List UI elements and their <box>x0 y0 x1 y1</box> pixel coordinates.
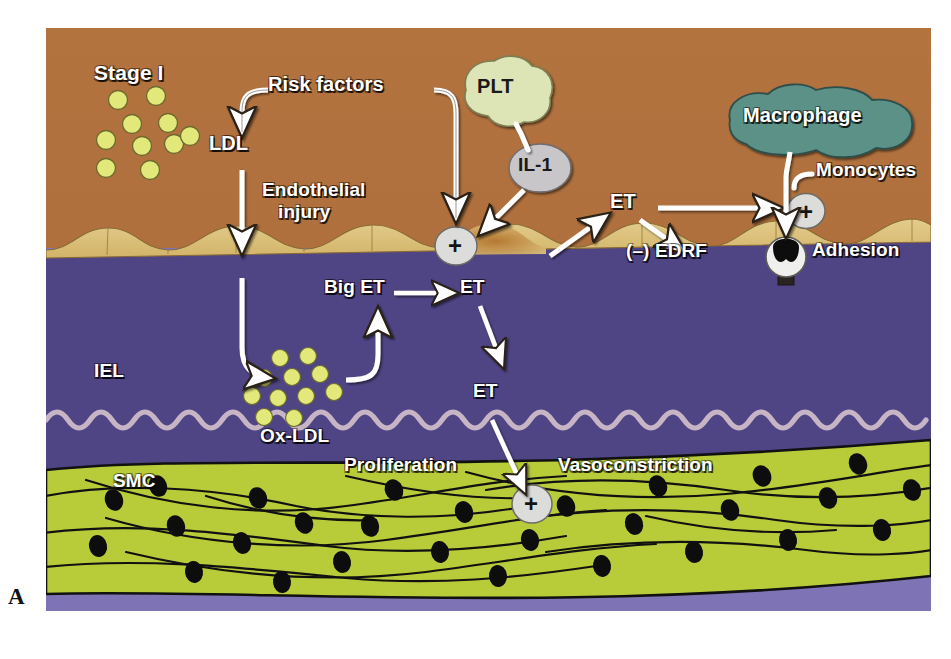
smc-label: SMC <box>113 471 156 492</box>
et-intima-label: ET <box>473 381 497 402</box>
plus-endothelial-activation-label: + <box>448 232 462 260</box>
proliferation-label: Proliferation <box>344 455 457 476</box>
adhesion-label: Adhesion <box>812 240 899 261</box>
intima-layer <box>46 242 931 480</box>
endothelial-injury-line1: Endothelial <box>262 180 366 201</box>
et-lumen-label: ET <box>610 191 636 213</box>
vasoconstriction-label: Vasoconstriction <box>558 455 713 476</box>
atherosclerosis-diagram: Stage I Risk factors LDL Endothelial inj… <box>46 28 931 611</box>
macrophage-label: Macrophage <box>743 105 862 127</box>
ldl-label: LDL <box>209 133 248 155</box>
iel-label: IEL <box>94 361 124 382</box>
edrf-label: (–) EDRF <box>626 241 707 262</box>
et-endothelium-label: ET <box>460 277 484 298</box>
big-et-label: Big ET <box>324 277 385 298</box>
il1-label: IL-1 <box>518 155 552 176</box>
plt-label: PLT <box>477 76 514 98</box>
risk-factors-label: Risk factors <box>268 74 384 96</box>
figure-page: A <box>0 0 951 659</box>
smooth-muscle-cell-layer <box>46 440 931 598</box>
stage-label: Stage I <box>94 62 164 85</box>
panel-label-a: A <box>8 584 25 610</box>
ox-ldl-label: Ox-LDL <box>260 426 329 447</box>
endothelial-injury-line2: injury <box>278 202 330 223</box>
plus-smc-activation-label: + <box>524 490 538 518</box>
plus-adhesion-activation-label: + <box>799 198 813 226</box>
monocytes-label: Monocytes <box>816 160 916 181</box>
